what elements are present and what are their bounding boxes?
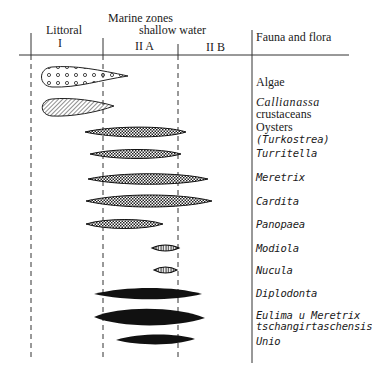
- cardita-range-shape: [86, 195, 212, 207]
- modiola-range-shape: [152, 245, 179, 251]
- meretrix-range-shape: [88, 174, 208, 185]
- label-turritella: Turritella: [256, 147, 317, 159]
- label-panopaea: Panopaea: [256, 218, 305, 230]
- diplodonta-range-shape: [94, 288, 202, 299]
- nucula-range-shape: [154, 267, 177, 273]
- eulima-range-shape: [94, 309, 205, 326]
- label-diplodonta: Diplodonta: [256, 287, 317, 299]
- label-algae: Algae: [256, 76, 285, 88]
- panopaea-range-shape: [86, 220, 163, 229]
- label-turkostrea: (Turkostrea): [256, 133, 329, 145]
- label-unio: Unio: [256, 335, 281, 347]
- label-nucula: Nucula: [256, 264, 293, 276]
- algae-range-shape: [42, 67, 129, 88]
- label-cardita: Cardita: [256, 195, 299, 207]
- turritella-range-shape: [90, 150, 181, 159]
- label-meretrix: Meretrix: [256, 171, 305, 183]
- oysters-range-shape: [85, 127, 186, 137]
- label-oysters: Oysters: [256, 121, 293, 133]
- label-modiola: Modiola: [256, 242, 299, 254]
- label-crustaceans: crustaceans: [256, 108, 311, 120]
- unio-range-shape: [116, 335, 195, 345]
- label-tschangirtaschensis: tschangirtaschensis: [256, 320, 372, 332]
